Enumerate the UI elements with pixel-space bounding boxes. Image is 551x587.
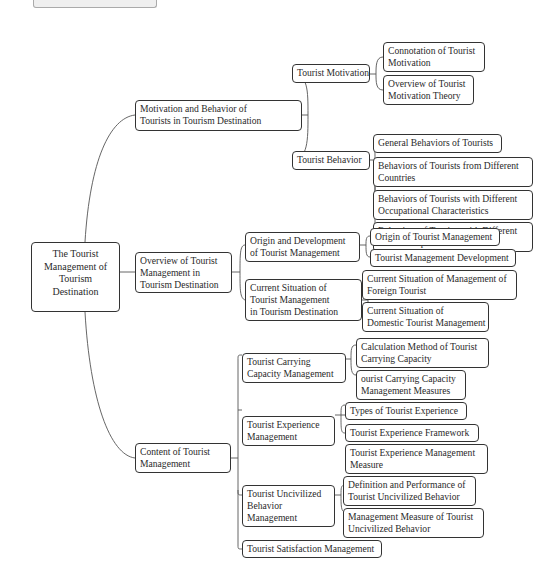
node-line: Current Situation of Management of xyxy=(367,273,512,285)
node-line: Tourist Carrying xyxy=(247,356,341,368)
node-current-situation: Current Situation of Tourist Management … xyxy=(245,279,362,321)
node-line: Measure xyxy=(350,459,483,471)
node-line: Tourist Experience Framework xyxy=(350,427,474,439)
leaf-experience-types: Types of Tourist Experience xyxy=(345,402,467,420)
root-line: The Tourist xyxy=(36,248,115,261)
node-line: Management in xyxy=(140,267,227,279)
node-line: Tourism Destination xyxy=(140,279,227,291)
node-overview: Overview of Tourist Management in Touris… xyxy=(135,252,232,293)
node-line: Connotation of Tourist xyxy=(388,45,480,57)
node-uncivilized: Tourist Uncivilized Behavior Management xyxy=(242,485,335,527)
node-line: Calculation Method of Tourist xyxy=(361,341,484,353)
node-origin-development: Origin and Development of Tourist Manage… xyxy=(245,232,360,262)
node-line: Motivation and Behavior of xyxy=(140,103,297,115)
leaf-different-countries: Behaviors of Tourists from Different Cou… xyxy=(373,157,533,187)
node-line: Motivation xyxy=(388,57,480,69)
node-line: Occupational Characteristics xyxy=(378,205,528,217)
node-line: Current Situation of xyxy=(250,282,357,294)
node-line: Overview of Tourist xyxy=(140,255,227,267)
node-satisfaction: Tourist Satisfaction Management xyxy=(242,540,382,558)
node-line: Overview of Tourist xyxy=(388,78,469,90)
node-tourist-behavior: Tourist Behavior xyxy=(292,151,370,170)
node-line: Management Measure of Tourist xyxy=(348,511,479,523)
leaf-general-behaviors: General Behaviors of Tourists xyxy=(373,134,502,153)
node-line: Behaviors of Tourists from Different xyxy=(378,160,528,172)
node-line: Tourist Management Development xyxy=(375,252,511,264)
leaf-experience-framework: Tourist Experience Framework xyxy=(345,424,479,442)
connector-root-content xyxy=(85,312,135,458)
node-line: Tourist Motivation xyxy=(297,67,365,79)
node-line: Management xyxy=(247,512,330,524)
node-carrying-capacity: Tourist Carrying Capacity Management xyxy=(242,353,346,383)
node-line: Foreign Tourist xyxy=(367,285,512,297)
leaf-foreign-tourist: Current Situation of Management of Forei… xyxy=(362,270,517,300)
leaf-development: Tourist Management Development xyxy=(370,249,516,267)
leaf-uncivilized-measure: Management Measure of Tourist Uncivilize… xyxy=(343,508,484,538)
leaf-capacity-measures: ourist Carrying Capacity Management Meas… xyxy=(356,370,466,400)
node-line: Management Measures xyxy=(361,385,461,397)
node-line: Origin of Tourist Management xyxy=(375,231,495,243)
node-line: Behaviors of Tourists with Different xyxy=(378,193,528,205)
node-line: Types of Tourist Experience xyxy=(350,405,462,417)
node-line: Current Situation of xyxy=(367,305,484,317)
node-line: Uncivilized Behavior xyxy=(348,523,479,535)
root-line: Tourism xyxy=(36,273,115,286)
node-line: Tourist Management xyxy=(250,294,357,306)
node-line: General Behaviors of Tourists xyxy=(378,137,497,149)
node-line: Management xyxy=(140,458,226,470)
node-line: Tourists in Tourism Destination xyxy=(140,115,297,127)
node-line: Tourist Satisfaction Management xyxy=(247,543,377,555)
leaf-origin: Origin of Tourist Management xyxy=(370,228,500,246)
connector-root-motivation xyxy=(85,115,135,242)
node-line: Tourist Uncivilized Behavior xyxy=(348,491,471,503)
node-line: Motivation Theory xyxy=(388,90,469,102)
node-line: Tourist Uncivilized xyxy=(247,488,330,500)
node-line: ourist Carrying Capacity xyxy=(361,373,461,385)
leaf-connotation: Connotation of Tourist Motivation xyxy=(383,42,485,72)
leaf-calculation-method: Calculation Method of Tourist Carrying C… xyxy=(356,338,489,368)
node-line: Tourist Behavior xyxy=(297,154,365,166)
node-line: Origin and Development xyxy=(250,235,355,247)
node-line: Capacity Management xyxy=(247,368,341,380)
leaf-uncivilized-definition: Definition and Performance of Tourist Un… xyxy=(343,476,476,506)
node-line: in Tourism Destination xyxy=(250,306,357,318)
node-line: Tourist Experience Management xyxy=(350,447,483,459)
node-motivation-behavior: Motivation and Behavior of Tourists in T… xyxy=(135,100,302,131)
leaf-domestic-tourist: Current Situation of Domestic Tourist Ma… xyxy=(362,302,489,332)
root-line: Management of xyxy=(36,261,115,274)
leaf-experience-measure: Tourist Experience Management Measure xyxy=(345,444,488,474)
node-line: Management xyxy=(247,431,330,443)
node-line: Behavior xyxy=(247,500,330,512)
leaf-occupational: Behaviors of Tourists with Different Occ… xyxy=(373,190,533,220)
node-experience: Tourist Experience Management xyxy=(242,416,335,446)
node-content: Content of Tourist Management xyxy=(135,443,231,473)
node-line: Countries xyxy=(378,172,528,184)
leaf-motivation-theory: Overview of Tourist Motivation Theory xyxy=(383,75,474,105)
node-line: Domestic Tourist Management xyxy=(367,317,484,329)
node-line: of Tourist Management xyxy=(250,247,355,259)
root-line: Destination xyxy=(36,286,115,299)
root-node: The Tourist Management of Tourism Destin… xyxy=(31,242,120,312)
node-tourist-motivation: Tourist Motivation xyxy=(292,64,370,83)
node-line: Definition and Performance of xyxy=(348,479,471,491)
node-line: Content of Tourist xyxy=(140,446,226,458)
node-line: Carrying Capacity xyxy=(361,353,484,365)
node-line: Tourist Experience xyxy=(247,419,330,431)
